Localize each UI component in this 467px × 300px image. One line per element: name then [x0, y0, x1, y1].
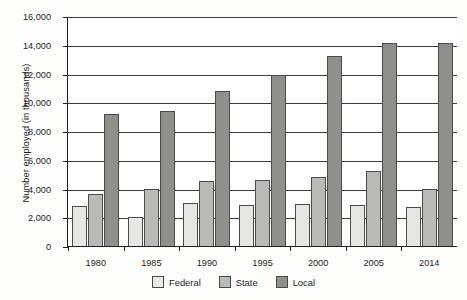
x-tick-mark: [346, 246, 347, 251]
bar-groups: 1980198519901995200020052014: [68, 17, 457, 246]
y-tick-label: 0: [0, 242, 51, 252]
bar-state-2000: [311, 177, 326, 246]
bar-chart: Number employed (in thousands) 02,0004,0…: [0, 0, 467, 300]
bar-federal-2014: [406, 207, 421, 246]
bar-local-2005: [382, 43, 397, 246]
legend-swatch-local-icon: [276, 276, 288, 288]
bar-group: 1985: [124, 17, 180, 246]
legend-label: Local: [293, 277, 315, 288]
legend-swatch-state-icon: [219, 276, 231, 288]
x-tick-label: 2014: [401, 258, 457, 268]
bar-local-1995: [271, 75, 286, 246]
legend-item-federal[interactable]: Federal: [152, 276, 201, 288]
bar-group: 1995: [235, 17, 291, 246]
x-tick-label: 1985: [124, 258, 180, 268]
bar-local-1980: [104, 114, 119, 246]
legend-label: Federal: [169, 277, 201, 288]
x-tick-label: 1980: [68, 258, 124, 268]
y-tick-label: 16,000: [0, 12, 51, 22]
x-tick-mark: [290, 246, 291, 251]
bar-group: 2000: [290, 17, 346, 246]
bar-federal-2000: [295, 204, 310, 246]
bar-state-1980: [88, 194, 103, 246]
y-tick-mark: [63, 132, 68, 133]
legend: FederalStateLocal: [0, 276, 467, 288]
x-tick-mark: [124, 246, 125, 251]
y-tick-label: 4,000: [0, 185, 51, 195]
bar-local-2000: [327, 56, 342, 246]
y-tick-mark: [63, 190, 68, 191]
bar-state-2005: [366, 171, 381, 246]
bar-state-2014: [422, 189, 437, 247]
x-tick-mark: [235, 246, 236, 251]
legend-item-state[interactable]: State: [219, 276, 258, 288]
y-tick-mark: [63, 247, 68, 248]
x-tick-label: 2000: [290, 258, 346, 268]
bar-federal-1980: [72, 206, 87, 246]
bar-federal-1990: [183, 203, 198, 246]
y-tick-label: 8,000: [0, 127, 51, 137]
bar-federal-1985: [128, 217, 143, 246]
y-tick-label: 14,000: [0, 41, 51, 51]
bar-federal-1995: [239, 205, 254, 246]
x-tick-mark: [68, 246, 69, 251]
bar-group: 2005: [346, 17, 402, 246]
bar-local-1990: [215, 91, 230, 246]
y-tick-label: 12,000: [0, 70, 51, 80]
x-tick-label: 1990: [179, 258, 235, 268]
bar-group: 1980: [68, 17, 124, 246]
bar-state-1985: [144, 189, 159, 247]
x-tick-label: 2005: [346, 258, 402, 268]
x-tick-mark: [401, 246, 402, 251]
y-tick-label: 6,000: [0, 156, 51, 166]
bar-federal-2005: [350, 205, 365, 246]
x-tick-label: 1995: [235, 258, 291, 268]
bar-group: 2014: [401, 17, 457, 246]
bar-state-1990: [199, 181, 214, 246]
y-tick-mark: [63, 218, 68, 219]
bar-local-2014: [438, 43, 453, 246]
y-tick-mark: [63, 161, 68, 162]
y-tick-label: 10,000: [0, 98, 51, 108]
y-tick-mark: [63, 46, 68, 47]
bar-local-1985: [160, 111, 175, 246]
plot-area: 02,0004,0006,0008,00010,00012,00014,0001…: [67, 17, 457, 247]
legend-swatch-federal-icon: [152, 276, 164, 288]
bar-group: 1990: [179, 17, 235, 246]
legend-label: State: [236, 277, 258, 288]
legend-item-local[interactable]: Local: [276, 276, 315, 288]
y-tick-mark: [63, 103, 68, 104]
bar-state-1995: [255, 180, 270, 246]
x-tick-mark: [179, 246, 180, 251]
y-tick-label: 2,000: [0, 213, 51, 223]
y-tick-mark: [63, 17, 68, 18]
y-tick-mark: [63, 75, 68, 76]
